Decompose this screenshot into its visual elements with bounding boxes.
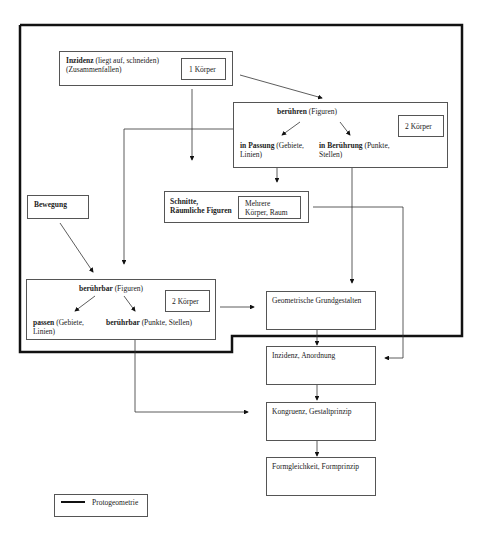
- inzidenz-text: (liegt auf, schneiden): [94, 56, 159, 65]
- node-beruehren: berühren (Figuren) 2 Körper in Passung (…: [233, 102, 448, 168]
- beruehren-text: (Figuren): [307, 107, 337, 116]
- tag-1-koerper: 1 Körper: [181, 58, 226, 80]
- legend-label: Protogeometrie: [92, 498, 138, 507]
- inzidenz-title: Inzidenz: [66, 56, 94, 65]
- tag-label: 1 Körper: [189, 65, 216, 74]
- node-bewegung: Bewegung: [27, 195, 89, 219]
- tag-label-2: Körper, Raum: [245, 208, 288, 217]
- tag-2-koerper: 2 Körper: [398, 115, 444, 137]
- node-formgleichheit: Formgleichkeit, Formprinzip: [266, 457, 376, 496]
- inzidenz-subtext: (Zusammenfallen): [66, 65, 121, 74]
- beruehren-title: berühren: [277, 107, 307, 116]
- beruehrbar-text: (Figuren): [113, 284, 143, 293]
- tag-2-koerper: 2 Körper: [165, 290, 210, 312]
- legend-line-swatch: [61, 501, 85, 503]
- schnitte-title: Schnitte,: [170, 197, 198, 206]
- node-schnitte: Schnitte,Räumliche Figuren MehrereKörper…: [164, 191, 309, 223]
- kongruenz-label: Kongruenz, Gestaltprinzip: [272, 407, 352, 416]
- beruehrbar-right-label: berührbar: [106, 318, 140, 327]
- tag-label: 2 Körper: [172, 297, 199, 306]
- node-beruehrbar: berührbar (Figuren) 2 Körper passen (Geb…: [26, 279, 216, 340]
- node-grundgestalten: Geometrische Grundgestalten: [266, 291, 376, 330]
- formgleichheit-label: Formgleichkeit, Formprinzip: [272, 462, 359, 471]
- node-anordnung: Inzidenz, Anordnung: [266, 346, 376, 385]
- tag-label: Mehrere: [245, 199, 270, 208]
- raeumliche-figuren-title: Räumliche Figuren: [170, 206, 232, 215]
- legend: Protogeometrie: [54, 494, 148, 517]
- anordnung-label: Inzidenz, Anordnung: [272, 351, 335, 360]
- passen-text: (Gebiete,: [54, 318, 84, 327]
- node-inzidenz: Inzidenz (liegt auf, schneiden) (Zusamme…: [59, 51, 233, 86]
- grundgestalten-label: Geometrische Grundgestalten: [272, 296, 361, 305]
- tag-label: 2 Körper: [405, 122, 432, 131]
- node-kongruenz: Kongruenz, Gestaltprinzip: [266, 402, 376, 441]
- bewegung-title: Bewegung: [34, 200, 67, 209]
- in-passung-text: (Gebiete,: [274, 141, 304, 150]
- passen-text2: Linien): [33, 327, 55, 336]
- beruehrbar-title: berührbar: [79, 284, 113, 293]
- in-beruehrung-label: in Berührung: [319, 141, 363, 150]
- in-beruehrung-text: (Punkte,: [363, 141, 390, 150]
- tag-mehrere-koerper: MehrereKörper, Raum: [238, 196, 301, 219]
- in-passung-label: in Passung: [240, 141, 274, 150]
- passen-label: passen: [33, 318, 54, 327]
- beruehrbar-right-text: (Punkte, Stellen): [140, 318, 192, 327]
- in-beruehrung-text2: Stellen): [319, 150, 342, 159]
- in-passung-text2: Linien): [240, 150, 262, 159]
